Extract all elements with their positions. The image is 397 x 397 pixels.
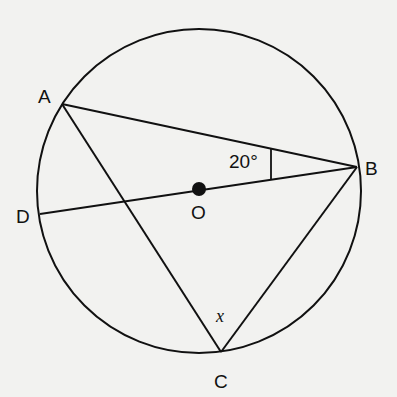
label-a: A — [38, 86, 51, 107]
label-d: D — [16, 206, 30, 227]
circle-diagram: A B C D O 20° x — [0, 0, 397, 397]
chord-bc — [221, 167, 357, 352]
angle-label-x: x — [215, 306, 224, 326]
chord-ac — [62, 104, 221, 352]
angle-label-20: 20° — [229, 151, 258, 172]
label-c: C — [214, 371, 228, 392]
center-point-o — [192, 182, 206, 196]
chord-ab — [62, 104, 357, 167]
label-o: O — [191, 202, 206, 223]
label-b: B — [365, 158, 378, 179]
